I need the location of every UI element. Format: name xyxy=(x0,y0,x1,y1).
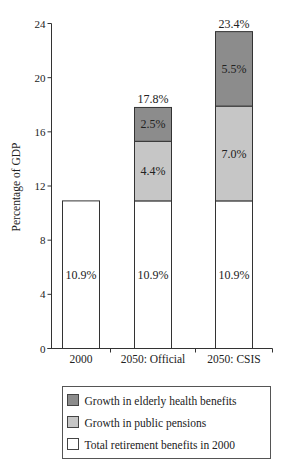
legend-swatch xyxy=(68,417,79,428)
segment-value-label: 4.4% xyxy=(141,164,166,178)
segment-value-label: 10.9% xyxy=(219,268,250,282)
segment-value-label: 10.9% xyxy=(138,268,169,282)
legend-swatch xyxy=(68,395,79,406)
legend-label: Total retirement benefits in 2000 xyxy=(85,439,236,451)
y-tick-label: 8 xyxy=(40,234,46,246)
y-tick-label: 24 xyxy=(35,18,47,30)
segment-value-label: 5.5% xyxy=(222,62,247,76)
x-tick-label: 2000 xyxy=(70,353,93,365)
legend-label: Growth in elderly health benefits xyxy=(85,395,238,408)
x-tick-label: 2050: Official xyxy=(121,353,186,365)
y-axis: 04812162024 xyxy=(35,18,52,355)
legend: Growth in elderly health benefitsGrowth … xyxy=(63,387,271,459)
legend-item: Total retirement benefits in 2000 xyxy=(68,439,236,451)
y-tick-label: 16 xyxy=(35,126,47,138)
total-value-label: 17.8% xyxy=(138,92,169,106)
y-tick-label: 20 xyxy=(35,72,47,84)
y-tick-label: 0 xyxy=(40,343,46,355)
legend-swatch xyxy=(68,439,79,450)
legend-label: Growth in public pensions xyxy=(85,417,207,430)
total-value-label: 23.4% xyxy=(219,17,250,31)
stacked-bar-chart: 04812162024 Percentage of GDP 10.9%10.9%… xyxy=(0,0,283,472)
bar-stack: 10.9%4.4%2.5%17.8% xyxy=(135,92,172,348)
y-axis-title: Percentage of GDP xyxy=(10,143,23,232)
bar-stack: 10.9%7.0%5.5%23.4% xyxy=(216,17,253,349)
x-axis: 20002050: Official2050: CSIS xyxy=(48,349,273,366)
segment-value-label: 10.9% xyxy=(66,268,97,282)
bar-stack: 10.9% xyxy=(63,201,100,349)
y-tick-label: 4 xyxy=(40,288,46,300)
bars: 10.9%10.9%4.4%2.5%17.8%10.9%7.0%5.5%23.4… xyxy=(63,17,253,349)
legend-item: Growth in elderly health benefits xyxy=(68,395,238,408)
y-tick-label: 12 xyxy=(35,180,46,192)
x-tick-label: 2050: CSIS xyxy=(207,353,260,365)
segment-value-label: 2.5% xyxy=(141,117,166,131)
segment-value-label: 7.0% xyxy=(222,147,247,161)
legend-item: Growth in public pensions xyxy=(68,417,207,430)
